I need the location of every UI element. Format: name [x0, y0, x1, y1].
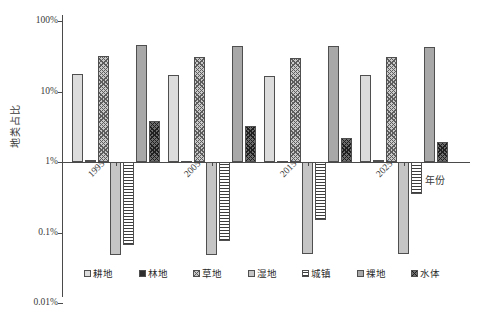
legend-item-草地[interactable]: 草地	[193, 266, 222, 280]
bar-林地-2025	[373, 160, 384, 162]
legend-item-城镇[interactable]: 城镇	[302, 266, 331, 280]
bar-裸地-2015	[328, 46, 339, 162]
bar-草地-1995	[98, 56, 109, 162]
y-tick-label: 10%	[12, 86, 58, 96]
y-tick-mark	[58, 92, 62, 93]
bar-草地-2025	[386, 57, 397, 162]
bar-裸地-2005	[232, 46, 243, 162]
bar-湿地-2015	[302, 162, 313, 254]
y-tick-label: 1%	[12, 156, 58, 166]
legend-swatch-icon	[302, 270, 309, 277]
legend-label: 耕地	[93, 266, 113, 280]
legend-swatch-icon	[357, 270, 364, 277]
bar-湿地-2005	[206, 162, 217, 255]
y-axis-line	[62, 15, 63, 297]
legend-swatch-icon	[411, 270, 418, 277]
bar-城镇-2015	[315, 162, 326, 220]
legend-item-湿地[interactable]: 湿地	[248, 266, 277, 280]
bar-耕地-2005	[168, 75, 179, 162]
y-tick-label: 0.1%	[12, 227, 58, 237]
legend-swatch-icon	[193, 270, 200, 277]
bar-湿地-1995	[110, 162, 121, 255]
bar-耕地-1995	[72, 74, 83, 162]
chart-legend: 耕地林地草地湿地城镇裸地水体	[62, 263, 462, 283]
legend-label: 裸地	[366, 266, 386, 280]
plot-area: 1995200520152025	[62, 15, 470, 297]
legend-swatch-icon	[248, 270, 255, 277]
bar-草地-2015	[290, 58, 301, 162]
bar-水体-1995	[149, 121, 160, 162]
bar-裸地-1995	[136, 45, 147, 162]
x-tick-mark	[404, 162, 405, 166]
y-tick-mark	[58, 303, 63, 304]
bar-水体-2015	[341, 138, 352, 162]
y-axis-tick-labels: 100%10%1%0.1%0.01%	[0, 0, 58, 312]
legend-label: 城镇	[311, 266, 331, 280]
legend-item-林地[interactable]: 林地	[139, 266, 168, 280]
y-tick-mark	[58, 162, 62, 163]
y-tick-label: 100%	[12, 15, 58, 25]
bar-城镇-1995	[123, 162, 134, 245]
bar-水体-2005	[245, 126, 256, 162]
bar-城镇-2025	[411, 162, 422, 194]
land-use-log-bar-chart: 地类占比 年份 100%10%1%0.1%0.01% 1995200520152…	[0, 0, 477, 312]
bar-草地-2005	[194, 57, 205, 162]
legend-label: 草地	[202, 266, 222, 280]
x-tick-mark	[308, 162, 309, 166]
legend-label: 林地	[148, 266, 168, 280]
legend-item-耕地[interactable]: 耕地	[84, 266, 113, 280]
y-tick-mark	[58, 233, 62, 234]
legend-label: 水体	[420, 266, 440, 280]
bar-耕地-2025	[360, 75, 371, 162]
legend-item-水体[interactable]: 水体	[411, 266, 440, 280]
x-tick-mark	[116, 162, 117, 166]
bar-裸地-2025	[424, 47, 435, 162]
legend-swatch-icon	[84, 270, 91, 277]
bar-耕地-2015	[264, 76, 275, 162]
bar-湿地-2025	[398, 162, 409, 254]
legend-swatch-icon	[139, 270, 146, 277]
y-tick-mark	[58, 21, 63, 22]
bar-水体-2025	[437, 142, 448, 162]
y-tick-label: 0.01%	[12, 297, 58, 307]
legend-label: 湿地	[257, 266, 277, 280]
bar-城镇-2005	[219, 162, 230, 241]
legend-item-裸地[interactable]: 裸地	[357, 266, 386, 280]
x-tick-mark	[212, 162, 213, 166]
